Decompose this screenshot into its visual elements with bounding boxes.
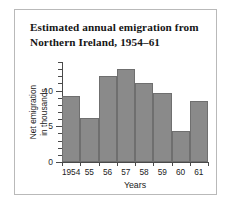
x-axis-tick (117, 162, 118, 166)
x-axis-tick-label: 1954 (62, 168, 80, 176)
bar (153, 93, 171, 162)
x-axis-tick-label: 57 (121, 168, 130, 176)
x-axis-tick (135, 162, 136, 166)
chart-title-line-1: Estimated annual emigration from (30, 21, 199, 33)
bar (172, 131, 190, 162)
bar (190, 101, 208, 162)
x-axis-tick (80, 162, 81, 166)
y-axis-tick-label: 10 (44, 86, 53, 95)
x-axis-tick (172, 162, 173, 166)
bar (117, 69, 135, 162)
x-axis-tick-label: 55 (85, 168, 94, 176)
plot-area: 0510 195455565758596061 (62, 62, 208, 162)
y-axis-tick-label: 0 (48, 158, 53, 167)
y-axis-tick-label: 5 (48, 122, 53, 131)
x-axis-tick (62, 162, 63, 166)
x-axis-tick-label: 60 (176, 168, 185, 176)
x-axis-tick-label: 56 (103, 168, 112, 176)
x-axis-tick (99, 162, 100, 166)
x-axis-tick (208, 162, 209, 166)
y-axis-tick (58, 69, 62, 70)
x-axis-tick-label: 58 (140, 168, 149, 176)
x-axis-tick (190, 162, 191, 166)
x-axis-tick-label: 59 (158, 168, 167, 176)
y-axis-title: Net emigration in thousands (28, 62, 52, 162)
y-axis-tick (58, 62, 62, 63)
chart-title-line-2: Northern Ireland, 1954–61 (30, 36, 160, 48)
y-axis-tick (58, 76, 62, 77)
x-axis-tick (153, 162, 154, 166)
chart-image: Estimated annual emigration from Norther… (0, 0, 231, 211)
x-axis-title: Years (62, 180, 208, 190)
bar (62, 96, 80, 162)
y-axis-title-line-1: Net emigration (28, 62, 39, 162)
bar (135, 83, 153, 162)
bar (80, 118, 98, 162)
bar (99, 76, 117, 162)
y-axis-tick: 10 (56, 91, 62, 92)
y-axis-title-line-2: in thousands (39, 62, 50, 162)
chart-title: Estimated annual emigration from Norther… (30, 20, 210, 49)
y-axis-tick (58, 83, 62, 84)
x-axis-tick-label: 61 (194, 168, 203, 176)
